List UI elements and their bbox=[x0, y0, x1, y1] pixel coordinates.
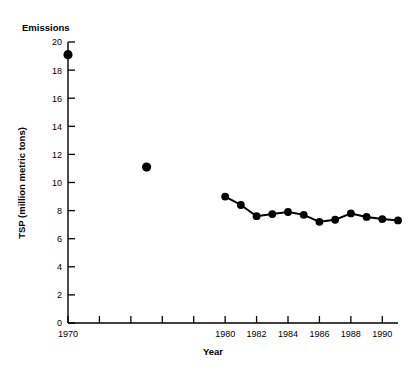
y-tick-label: 10 bbox=[52, 178, 62, 188]
y-tick-label: 18 bbox=[52, 66, 62, 76]
data-point bbox=[331, 216, 339, 224]
y-tick-label: 14 bbox=[52, 122, 62, 132]
data-point bbox=[268, 210, 276, 218]
x-tick-label: 1988 bbox=[341, 329, 361, 339]
emissions-chart: Emissions 02468101214161820 TSP (million… bbox=[0, 0, 412, 377]
x-tick-label: 1990 bbox=[372, 329, 392, 339]
data-point bbox=[221, 193, 229, 201]
y-tick-label: 8 bbox=[57, 206, 62, 216]
data-point bbox=[284, 208, 292, 216]
data-point bbox=[316, 218, 324, 226]
data-point bbox=[394, 217, 402, 225]
y-tick-label: 6 bbox=[57, 234, 62, 244]
data-point bbox=[347, 210, 355, 218]
data-point bbox=[378, 215, 386, 223]
x-tick-label: 1980 bbox=[215, 329, 235, 339]
x-tick-label: 1970 bbox=[58, 329, 78, 339]
x-tick-label: 1984 bbox=[278, 329, 298, 339]
y-axis-title: TSP (million metric tons) bbox=[16, 127, 27, 239]
y-tick-label: 4 bbox=[57, 262, 62, 272]
data-point bbox=[300, 211, 308, 219]
x-tick-label: 1982 bbox=[247, 329, 267, 339]
data-point bbox=[363, 213, 371, 221]
chart-title: Emissions bbox=[22, 22, 70, 33]
y-tick-label: 16 bbox=[52, 94, 62, 104]
x-axis-title: Year bbox=[203, 346, 223, 357]
x-tick-label: 1986 bbox=[309, 329, 329, 339]
chart-canvas: Emissions 02468101214161820 TSP (million… bbox=[0, 0, 412, 377]
y-tick-label: 2 bbox=[57, 290, 62, 300]
y-tick-label: 20 bbox=[52, 37, 62, 47]
data-point bbox=[63, 50, 72, 59]
data-point bbox=[237, 201, 245, 209]
data-point bbox=[253, 212, 261, 220]
y-tick-label: 12 bbox=[52, 150, 62, 160]
y-tick-label: 0 bbox=[57, 318, 62, 328]
data-point bbox=[142, 162, 151, 171]
